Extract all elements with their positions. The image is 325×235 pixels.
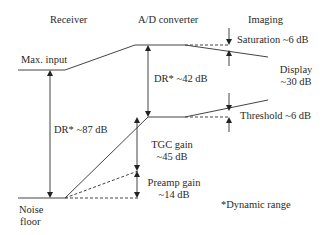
saturation-label: Saturation ~6 dB [237,34,309,46]
header-receiver: Receiver [50,14,87,26]
footnote-dynamic-range: *Dynamic range [221,199,291,211]
max-input-label: Max. input [21,54,67,66]
tgc-gain-line1: TGC gain [142,139,202,151]
preamp-gain-line2: ~14 dB [140,189,208,201]
threshold-label: Threshold ~6 dB [240,110,311,122]
tgc-gain-line2: ~45 dB [142,151,202,163]
header-imaging: Imaging [248,14,283,26]
noise-floor-line2: floor [19,216,44,228]
display-label-line2: ~30 dB [270,76,322,88]
dynamic-range-diagram: Receiver A/D converter Imaging Max. inpu… [0,0,325,235]
header-ad-converter: A/D converter [138,14,198,26]
noise-floor-label: Noise floor [19,204,44,228]
tgc-gain-label: TGC gain ~45 dB [142,139,202,163]
dr-ad-label: DR* ~42 dB [154,73,208,85]
preamp-gain-label: Preamp gain ~14 dB [140,177,208,201]
preamp-dashed-upper [65,171,138,198]
dr-receiver-label: DR* ~87 dB [54,124,108,136]
noise-floor-line1: Noise [19,204,44,216]
display-label: Display ~30 dB [270,64,322,88]
display-label-line1: Display [270,64,322,76]
preamp-gain-line1: Preamp gain [140,177,208,189]
